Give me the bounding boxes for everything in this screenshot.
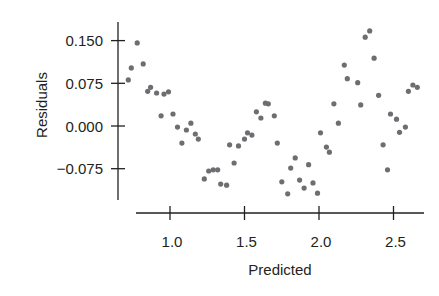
- data-point: [232, 160, 237, 165]
- data-point: [159, 113, 164, 118]
- data-point: [293, 155, 298, 160]
- data-point: [266, 101, 271, 106]
- data-point: [376, 93, 381, 98]
- plot-canvas: 0.1500.0750.000−0.075 1.01.52.02.5 Resid…: [0, 0, 439, 296]
- data-point: [394, 117, 399, 122]
- data-point: [297, 178, 302, 183]
- data-point: [406, 89, 411, 94]
- data-point: [397, 130, 402, 135]
- data-point: [363, 35, 368, 40]
- data-point: [188, 121, 193, 126]
- data-point: [285, 191, 290, 196]
- x-axis: 1.01.52.02.5: [136, 206, 424, 250]
- data-point: [166, 89, 171, 94]
- data-point: [403, 125, 408, 130]
- data-point: [410, 82, 415, 87]
- data-point: [306, 162, 311, 167]
- data-point: [385, 167, 390, 172]
- data-point: [327, 150, 332, 155]
- data-point: [324, 145, 329, 150]
- data-point: [315, 191, 320, 196]
- data-point: [388, 111, 393, 116]
- data-point: [211, 167, 216, 172]
- data-point: [179, 141, 184, 146]
- data-point: [245, 130, 250, 135]
- data-point: [358, 102, 363, 107]
- data-point: [272, 113, 277, 118]
- data-point: [367, 28, 372, 33]
- data-point: [318, 130, 323, 135]
- data-point: [345, 76, 350, 81]
- data-point: [161, 92, 166, 97]
- data-point: [227, 142, 232, 147]
- data-point: [175, 125, 180, 130]
- y-tick-label: 0.000: [65, 118, 103, 135]
- x-tick-label: 2.5: [385, 233, 406, 250]
- data-point: [310, 180, 315, 185]
- data-point: [331, 101, 336, 106]
- data-point: [249, 133, 254, 138]
- data-point: [224, 183, 229, 188]
- y-tick-label: 0.075: [65, 75, 103, 92]
- data-point: [148, 85, 153, 90]
- data-point: [202, 176, 207, 181]
- data-point: [196, 137, 201, 142]
- data-point: [275, 141, 280, 146]
- data-point: [129, 65, 134, 70]
- data-point: [154, 90, 159, 95]
- y-tick-label: −0.075: [57, 160, 103, 177]
- data-point: [193, 131, 198, 136]
- data-point: [218, 182, 223, 187]
- x-axis-title: Predicted: [248, 261, 311, 278]
- residual-scatter-plot: 0.1500.0750.000−0.075 1.01.52.02.5 Resid…: [0, 0, 439, 296]
- data-point: [170, 111, 175, 116]
- y-axis: 0.1500.0750.000−0.075: [57, 22, 125, 200]
- data-point: [206, 168, 211, 173]
- x-tick-label: 1.0: [162, 233, 183, 250]
- data-point: [215, 167, 220, 172]
- data-point: [126, 77, 131, 82]
- x-tick-label: 2.0: [311, 233, 332, 250]
- y-tick-label: 0.150: [65, 32, 103, 49]
- data-point: [254, 109, 259, 114]
- data-point: [258, 115, 263, 120]
- data-point: [242, 137, 247, 142]
- data-point: [279, 179, 284, 184]
- y-ticks: 0.1500.0750.000−0.075: [57, 32, 125, 177]
- data-point: [372, 56, 377, 61]
- data-points: [126, 28, 420, 196]
- data-point: [184, 127, 189, 132]
- data-point: [342, 63, 347, 68]
- x-tick-label: 1.5: [236, 233, 257, 250]
- data-point: [141, 61, 146, 66]
- data-point: [336, 121, 341, 126]
- data-point: [381, 142, 386, 147]
- data-point: [302, 186, 307, 191]
- data-point: [288, 166, 293, 171]
- y-axis-title: Residuals: [33, 72, 50, 138]
- data-point: [236, 143, 241, 148]
- data-point: [355, 80, 360, 85]
- data-point: [415, 85, 420, 90]
- data-point: [135, 40, 140, 45]
